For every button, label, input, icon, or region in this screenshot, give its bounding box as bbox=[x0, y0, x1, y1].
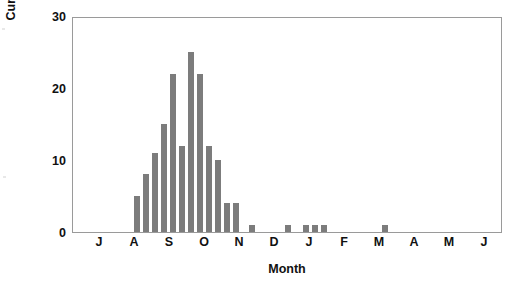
bar bbox=[161, 124, 167, 232]
bar bbox=[206, 146, 212, 232]
x-tick-label: M bbox=[374, 236, 384, 249]
x-tick-label: D bbox=[269, 236, 278, 249]
bar bbox=[134, 196, 140, 232]
bar bbox=[312, 225, 318, 232]
bar bbox=[152, 153, 158, 232]
bar bbox=[224, 203, 230, 232]
bar bbox=[382, 225, 388, 232]
x-tick-label: J bbox=[96, 236, 103, 249]
bar bbox=[233, 203, 239, 232]
x-tick-label: A bbox=[129, 236, 138, 249]
x-tick-label: S bbox=[165, 236, 173, 249]
x-tick-label: N bbox=[234, 236, 243, 249]
y-axis-tick-labels: 30 20 10 0 bbox=[26, 0, 66, 293]
chart-figure: Cumulative number of counts 30 20 10 0 J… bbox=[0, 0, 514, 293]
x-tick-label: J bbox=[481, 236, 488, 249]
bar bbox=[285, 225, 291, 232]
y-tick-label-30: 30 bbox=[26, 11, 66, 24]
plot-area bbox=[72, 17, 502, 233]
bar bbox=[303, 225, 309, 232]
bar bbox=[143, 174, 149, 232]
bar bbox=[215, 160, 221, 232]
bar bbox=[170, 74, 176, 232]
x-axis-title: Month bbox=[72, 262, 502, 276]
bar bbox=[188, 52, 194, 232]
x-tick-label: O bbox=[199, 236, 209, 249]
y-tick-label-0: 0 bbox=[26, 227, 66, 240]
bar bbox=[249, 225, 255, 232]
bar bbox=[197, 74, 203, 232]
x-tick-label: M bbox=[444, 236, 454, 249]
x-tick-label: J bbox=[306, 236, 313, 249]
scan-artifact bbox=[3, 176, 6, 178]
bar bbox=[179, 146, 185, 232]
y-tick-label-10: 10 bbox=[26, 155, 66, 168]
y-axis-title: Cumulative number of counts bbox=[0, 0, 22, 39]
x-axis-tick-labels: JASONDJFMAMJ bbox=[72, 236, 502, 256]
bars-container bbox=[73, 18, 501, 232]
x-tick-label: F bbox=[340, 236, 348, 249]
x-tick-label: A bbox=[409, 236, 418, 249]
bar bbox=[321, 225, 327, 232]
y-tick-label-20: 20 bbox=[26, 83, 66, 96]
